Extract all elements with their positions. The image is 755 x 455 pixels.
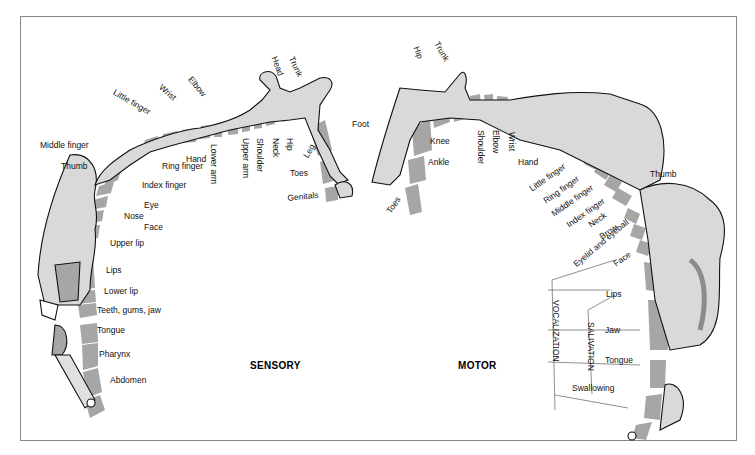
label-teeth-gums-jaw: Teeth, gums, jaw	[97, 306, 161, 315]
label-upper-arm: Upper arm	[242, 138, 251, 178]
label-lower-arm: Lower arm	[210, 144, 219, 184]
label-motor-ankle: Ankle	[428, 158, 449, 167]
label-neck: Neck	[272, 138, 281, 157]
label-lower-lip: Lower lip	[104, 287, 138, 296]
label-ring-finger: Ring finger	[162, 162, 203, 171]
label-hip: Hip	[286, 138, 295, 151]
label-motor-wrist: Wrist	[508, 132, 517, 151]
label-pharynx: Pharynx	[99, 350, 130, 359]
label-abdomen: Abdomen	[110, 376, 146, 385]
label-middle-finger: Middle finger	[40, 141, 89, 150]
label-motor-jaw: Jaw	[605, 326, 620, 335]
motor-title: MOTOR	[458, 360, 497, 371]
label-salivation: SALIVATION	[587, 322, 596, 371]
label-vocalization: VOCALIZATION	[552, 300, 561, 362]
label-motor-lips: Lips	[606, 290, 622, 299]
label-index-finger: Index finger	[142, 181, 186, 190]
label-shoulder: Shoulder	[256, 138, 265, 172]
label-motor-shoulder: Shoulder	[477, 130, 486, 164]
label-toes: Toes	[290, 169, 308, 178]
label-motor-elbow: Elbow	[492, 130, 501, 153]
label-upper-lip: Upper lip	[110, 239, 144, 248]
label-thumb: Thumb	[61, 162, 87, 171]
homunculus-illustration	[0, 0, 755, 455]
label-motor-knee: Knee	[430, 137, 450, 146]
label-eye: Eye	[144, 201, 159, 210]
label-tongue: Tongue	[97, 326, 125, 335]
label-motor-thumb: Thumb	[650, 170, 676, 179]
label-motor-hand: Hand	[518, 158, 538, 167]
label-foot: Foot	[352, 120, 369, 129]
label-nose: Nose	[124, 212, 144, 221]
label-lips: Lips	[106, 266, 122, 275]
label-motor-swallowing: Swallowing	[572, 384, 615, 393]
sensory-title: SENSORY	[250, 360, 301, 371]
label-motor-tongue: Tongue	[605, 356, 633, 365]
label-face: Face	[144, 223, 163, 232]
